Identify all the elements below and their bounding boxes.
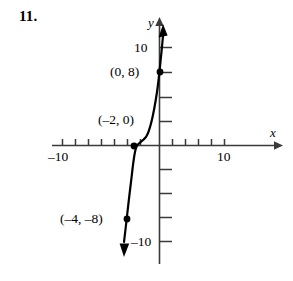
point-label-0-8: (0, 8): [110, 65, 139, 79]
x-axis-label: x: [270, 126, 276, 139]
y-axis-ticks-negative: [160, 170, 172, 242]
point-label-neg4-neg8: (–4, –8): [60, 212, 103, 226]
y-tick-label-neg10: –10: [131, 235, 151, 249]
point-marker-neg2-0: [131, 143, 138, 150]
x-tick-label-neg10: –10: [48, 150, 68, 164]
point-marker-0-8: [157, 69, 164, 76]
curve-lower-arrow-icon: [120, 244, 130, 258]
math-figure: 11.: [0, 0, 293, 281]
x-axis-arrow-icon: [274, 141, 283, 149]
y-tick-label-10: 10: [134, 41, 148, 55]
y-axis-label: y: [148, 16, 154, 29]
y-axis-arrow-icon: [155, 17, 163, 26]
point-label-neg2-0: (–2, 0): [98, 113, 134, 127]
point-marker-neg4-neg8: [124, 216, 131, 223]
x-tick-label-10: 10: [217, 150, 231, 164]
